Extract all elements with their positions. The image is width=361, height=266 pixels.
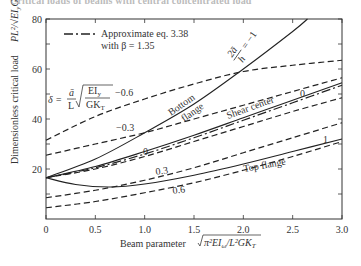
- svg-text:π²EIω/L²GKT: π²EIω/L²GKT: [204, 237, 257, 250]
- x-axis-label: Beam parameter: [120, 238, 186, 249]
- svg-text:h: h: [235, 54, 247, 64]
- legend-label-beta: with β = 1.35: [101, 40, 155, 51]
- a-h-label-0: 0: [300, 88, 305, 99]
- series-line: [46, 142, 342, 208]
- delta-label-03: 0.3: [155, 164, 169, 177]
- svg-text:GKT: GKT: [86, 99, 105, 112]
- svg-text:−0.6: −0.6: [115, 87, 133, 98]
- x-tick-label: 3.0: [336, 224, 349, 235]
- shear-center-label: Shear center: [225, 93, 276, 121]
- y-axis-label: Dimensionless critical load PL²/√EIyGKT: [9, 0, 22, 164]
- delta-label-neg03: −0.3: [116, 122, 134, 133]
- svg-text:EIy: EIy: [88, 85, 101, 98]
- a-over-h-label: 2ā h = −1: [224, 25, 263, 67]
- delta-label-06: 0.6: [172, 183, 186, 196]
- svg-text:Dimensionless critical load: Dimensionless critical load: [9, 55, 20, 164]
- x-tick-label: 0: [44, 224, 49, 235]
- delta-label-0: 0: [143, 146, 148, 157]
- plot-axes: 00.51.01.52.02.53.020406080: [32, 14, 348, 235]
- x-tick-label: 1.5: [188, 224, 201, 235]
- plot-annotations: Approximate eq. 3.38 with β = 1.35 δ = ā…: [9, 0, 328, 250]
- svg-text:δ =: δ =: [48, 94, 62, 105]
- delta-formula: δ = ā L EIy GKT −0.6: [48, 85, 133, 112]
- y-tick-label: 20: [32, 164, 42, 175]
- svg-text:L: L: [68, 100, 74, 111]
- series-line: [46, 139, 342, 187]
- y-tick-label: 80: [32, 14, 42, 25]
- x-tick-label: 2.0: [237, 224, 250, 235]
- x-tick-label: 0.5: [89, 224, 102, 235]
- legend-label: Approximate eq. 3.38: [101, 28, 188, 39]
- y-tick-label: 60: [32, 64, 42, 75]
- y-tick-label: 40: [32, 114, 42, 125]
- a-h-label-1: 1: [323, 134, 328, 145]
- top-flange-label: Top flange: [242, 156, 287, 174]
- x-tick-label: 2.5: [286, 224, 299, 235]
- svg-text:PL²/√EIyGKT: PL²/√EIyGKT: [9, 0, 22, 43]
- svg-text:= −1: = −1: [239, 29, 259, 51]
- x-tick-label: 1.0: [138, 224, 151, 235]
- critical-load-chart: 00.51.01.52.02.53.020406080 Approximate …: [0, 0, 361, 266]
- x-axis-formula: π²EIω/L²GKT: [198, 235, 261, 250]
- svg-text:ā: ā: [69, 87, 74, 98]
